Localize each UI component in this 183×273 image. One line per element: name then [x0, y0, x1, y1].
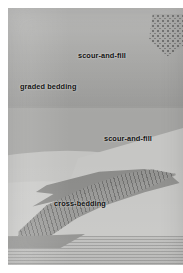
label-scour-and-fill-upper: scour-and-fill [78, 52, 126, 60]
plate-vignette [8, 8, 183, 265]
label-cross-bedding: cross-bedding [54, 200, 106, 208]
label-graded-bedding: graded bedding [20, 83, 76, 91]
label-scour-and-fill-right: scour-and-fill [104, 135, 152, 143]
illustration-plate: scour-and-fill graded bedding scour-and-… [8, 8, 183, 265]
figure-sedimentary-structures: scour-and-fill graded bedding scour-and-… [0, 0, 183, 273]
